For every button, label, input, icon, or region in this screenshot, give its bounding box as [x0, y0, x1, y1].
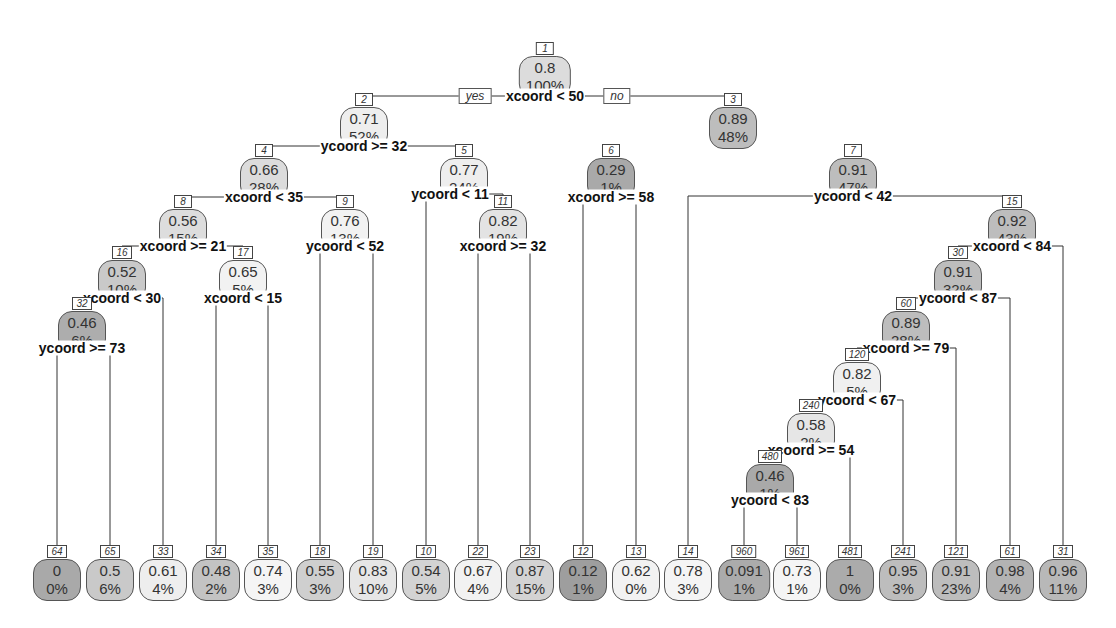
node-box: 0.8948%	[709, 107, 757, 149]
leaf-node: 120.121%	[559, 541, 607, 601]
node-box: 0.743%	[244, 559, 292, 601]
node-value: 0.91	[939, 562, 973, 580]
leaf-node: 330.614%	[139, 541, 187, 601]
split-condition: ycoord >= 73	[38, 341, 126, 356]
node-box: 0.620%	[612, 559, 660, 601]
leaf-node: 310.9611%	[1039, 541, 1087, 601]
node-value: 0.67	[461, 562, 495, 580]
node-value: 0.58	[794, 416, 828, 434]
node-value: 0.29	[594, 161, 628, 179]
node-id-label: 16	[112, 246, 131, 259]
node-percent: 4%	[461, 580, 495, 598]
node-id-label: 120	[845, 348, 870, 361]
node-id-label: 4	[255, 144, 273, 157]
leaf-node: 100.545%	[402, 541, 450, 601]
node-id-label: 11	[494, 195, 512, 208]
node-id-label: 960	[732, 545, 757, 558]
leaf-node: 350.743%	[244, 541, 292, 601]
split-condition: ycoord >= 32	[320, 139, 408, 154]
leaf-node: 180.553%	[296, 541, 344, 601]
node-box: 0.8310%	[349, 559, 397, 601]
node-id-label: 241	[891, 545, 916, 558]
node-percent: 1%	[780, 580, 814, 598]
leaf-node: 6400%	[33, 541, 81, 601]
node-percent: 6%	[93, 580, 127, 598]
node-percent: 10%	[356, 580, 390, 598]
node-value: 0.95	[886, 562, 920, 580]
node-percent: 0%	[619, 580, 653, 598]
node-id-label: 121	[944, 545, 969, 558]
node-id-label: 240	[799, 399, 824, 412]
node-value: 0.55	[303, 562, 337, 580]
node-value: 0.82	[840, 365, 874, 383]
node-id-label: 32	[72, 297, 91, 310]
node-id-label: 481	[838, 545, 863, 558]
node-percent: 11%	[1046, 580, 1080, 598]
leaf-node: 9610.731%	[773, 541, 821, 601]
node-value: 1	[833, 562, 867, 580]
node-id-label: 8	[174, 195, 192, 208]
node-value: 0.73	[780, 562, 814, 580]
node-id-label: 3	[724, 93, 742, 106]
node-value: 0.77	[447, 161, 481, 179]
node-box: 0.731%	[773, 559, 821, 601]
node-box: 0.545%	[402, 559, 450, 601]
node-value: 0.92	[995, 212, 1029, 230]
node-id-label: 480	[758, 450, 783, 463]
node-value: 0.65	[226, 263, 260, 281]
node-percent: 4%	[146, 580, 180, 598]
node-box: 0.553%	[296, 559, 344, 601]
node-box: 0.674%	[454, 559, 502, 601]
leaf-node: 48110%	[826, 541, 874, 601]
yes-branch-label: yes	[459, 88, 492, 104]
leaf-node: 1210.9123%	[932, 541, 980, 601]
node-id-label: 22	[468, 545, 487, 558]
node-value: 0	[40, 562, 74, 580]
node-id-label: 34	[206, 545, 225, 558]
node-percent: 23%	[939, 580, 973, 598]
node-value: 0.74	[251, 562, 285, 580]
leaf-node: 9600.0911%	[718, 541, 770, 601]
split-condition: ycoord < 52	[305, 239, 385, 254]
node-value: 0.96	[1046, 562, 1080, 580]
node-id-label: 9	[336, 195, 354, 208]
node-percent: 4%	[993, 580, 1027, 598]
node-value: 0.5	[93, 562, 127, 580]
node-box: 0.783%	[664, 559, 712, 601]
node-value: 0.66	[247, 161, 281, 179]
node-id-label: 61	[1000, 545, 1019, 558]
node-value: 0.76	[328, 212, 362, 230]
node-percent: 48%	[716, 128, 750, 146]
no-branch-label: no	[603, 88, 630, 104]
node-id-label: 35	[258, 545, 277, 558]
node-box: 0.984%	[986, 559, 1034, 601]
leaf-node: 130.620%	[612, 541, 660, 601]
node-id-label: 13	[626, 545, 645, 558]
node-id-label: 1	[536, 42, 554, 55]
node-id-label: 10	[416, 545, 435, 558]
split-condition: xcoord < 50	[505, 89, 585, 104]
node-id-label: 5	[455, 144, 473, 157]
node-id-label: 6	[602, 144, 620, 157]
node-value: 0.8	[526, 59, 564, 77]
node-percent: 2%	[199, 580, 233, 598]
node-box: 0.953%	[879, 559, 927, 601]
node-value: 0.54	[409, 562, 443, 580]
node-percent: 0%	[40, 580, 74, 598]
leaf-node: 190.8310%	[349, 541, 397, 601]
node-value: 0.46	[753, 467, 787, 485]
node-value: 0.091	[725, 562, 763, 580]
node-box: 00%	[33, 559, 81, 601]
node-value: 0.48	[199, 562, 233, 580]
node-value: 0.61	[146, 562, 180, 580]
node-value: 0.82	[486, 212, 520, 230]
node-percent: 1%	[725, 580, 763, 598]
node-percent: 1%	[566, 580, 600, 598]
node-box: 10%	[826, 559, 874, 601]
node-id-label: 23	[520, 545, 539, 558]
node-value: 0.89	[889, 314, 923, 332]
split-condition: xcoord < 84	[972, 239, 1052, 254]
leaf-node: 140.783%	[664, 541, 712, 601]
leaf-node: 220.674%	[454, 541, 502, 601]
node-value: 0.12	[566, 562, 600, 580]
